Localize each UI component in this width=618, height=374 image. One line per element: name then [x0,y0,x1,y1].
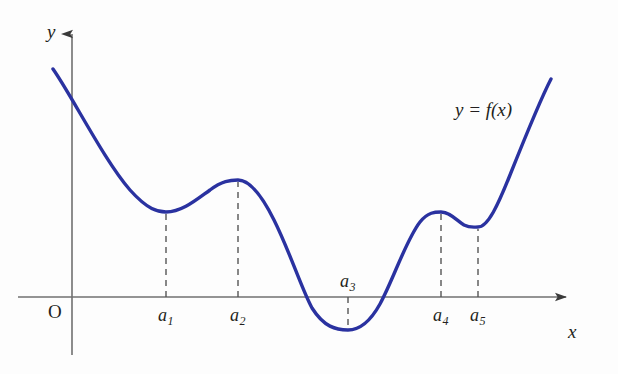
a3-base: a [340,271,349,291]
a4-subscript: 4 [443,314,449,328]
critical-point-label-a3: a3 [340,272,355,290]
x-axis-label: x [568,322,576,341]
a4-base: a [433,305,442,325]
plot-canvas [0,0,618,374]
a5-base: a [470,305,479,325]
a1-subscript: 1 [168,314,174,328]
critical-point-label-a2: a2 [230,306,245,324]
a2-base: a [230,305,239,325]
origin-label: O [48,302,62,321]
a5-subscript: 5 [480,314,486,328]
a1-base: a [158,305,167,325]
y-axis-label: y [47,22,55,41]
critical-point-label-a4: a4 [433,306,448,324]
critical-point-label-a5: a5 [470,306,485,324]
a2-subscript: 2 [240,314,246,328]
a3-subscript: 3 [350,280,356,294]
function-graph-figure: y x O y = f(x) a1 a2 a3 a4 a5 [0,0,618,374]
function-equation-label: y = f(x) [455,100,512,119]
critical-point-label-a1: a1 [158,306,173,324]
critical-point-guides [166,182,478,328]
